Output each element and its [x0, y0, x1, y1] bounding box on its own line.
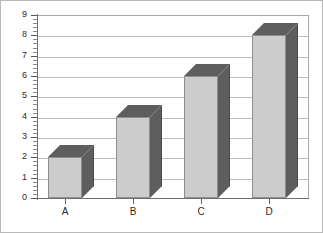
y-axis-tick-major [31, 15, 37, 16]
bar-b [116, 105, 162, 198]
y-axis-tick-minor [33, 80, 37, 81]
y-axis-tick-minor [33, 174, 37, 175]
y-axis-tick-major [31, 117, 37, 118]
bar-front-face [252, 35, 286, 198]
y-axis-tick-minor [33, 100, 37, 101]
y-axis-tick-label: 0 [7, 193, 27, 202]
bar-front-face [116, 117, 150, 198]
y-axis-tick-minor [33, 23, 37, 24]
y-axis-tick-minor [33, 88, 37, 89]
bar-d [252, 23, 298, 198]
x-axis-tick [65, 199, 66, 204]
y-axis-tick-minor [33, 39, 37, 40]
x-axis-tick-label: C [181, 206, 221, 217]
y-axis-tick-minor [33, 43, 37, 44]
y-axis-tick-major [31, 35, 37, 36]
y-axis-tick-label: 3 [7, 132, 27, 141]
bar-side-face [286, 23, 298, 198]
y-axis-tick-label: 5 [7, 91, 27, 100]
y-axis-tick-minor [33, 92, 37, 93]
bar-chart: 0123456789 ABCD [0, 0, 323, 233]
y-axis-tick-minor [33, 165, 37, 166]
x-axis-tick [133, 199, 134, 204]
y-axis-tick-major [31, 76, 37, 77]
y-axis-tick-minor [33, 190, 37, 191]
y-axis-tick-label: 1 [7, 173, 27, 182]
y-axis-tick-minor [33, 170, 37, 171]
y-axis-tick-minor [33, 31, 37, 32]
y-axis-tick-minor [33, 121, 37, 122]
y-axis-tick-major [31, 178, 37, 179]
y-axis-tick-major [31, 96, 37, 97]
x-axis-tick-label: D [249, 206, 289, 217]
y-axis-tick-minor [33, 72, 37, 73]
y-axis-tick-minor [33, 109, 37, 110]
y-axis-tick-label: 7 [7, 51, 27, 60]
y-axis-tick-minor [33, 27, 37, 28]
y-axis-tick-minor [33, 48, 37, 49]
bar-side-face [150, 105, 162, 198]
x-axis-tick-label: B [113, 206, 153, 217]
x-axis-tick-label: A [45, 206, 85, 217]
y-axis-tick-label: 8 [7, 30, 27, 39]
y-axis-tick-minor [33, 133, 37, 134]
y-axis-tick-minor [33, 153, 37, 154]
y-axis-tick-minor [33, 194, 37, 195]
y-axis-tick-minor [33, 145, 37, 146]
y-axis-tick-minor [33, 113, 37, 114]
y-axis-tick-label: 2 [7, 152, 27, 161]
y-axis-line [37, 14, 38, 200]
y-axis-tick-minor [33, 149, 37, 150]
y-axis-tick-minor [33, 141, 37, 142]
y-axis-tick-minor [33, 68, 37, 69]
y-axis-tick-label: 4 [7, 112, 27, 121]
y-axis-tick-minor [33, 84, 37, 85]
bar-front-face [48, 157, 82, 198]
bar-front-face [184, 76, 218, 198]
bar-side-face [218, 64, 230, 198]
y-axis-tick-major [31, 56, 37, 57]
y-axis-tick-minor [33, 161, 37, 162]
y-axis-tick-minor [33, 186, 37, 187]
y-axis-tick-major [31, 157, 37, 158]
y-axis-tick-label: 6 [7, 71, 27, 80]
y-axis-tick-minor [33, 52, 37, 53]
x-axis-tick [201, 199, 202, 204]
bar-a [48, 145, 94, 198]
y-axis-tick-minor [33, 60, 37, 61]
y-axis-tick-major [31, 137, 37, 138]
y-axis-tick-minor [33, 19, 37, 20]
x-axis-tick [269, 199, 270, 204]
y-axis-tick-minor [33, 104, 37, 105]
y-axis-tick-minor [33, 125, 37, 126]
y-axis-tick-major [31, 198, 37, 199]
y-axis-tick-minor [33, 182, 37, 183]
y-axis-tick-minor [33, 129, 37, 130]
bar-c [184, 64, 230, 198]
y-axis-tick-minor [33, 64, 37, 65]
y-axis-tick-label: 9 [7, 10, 27, 19]
